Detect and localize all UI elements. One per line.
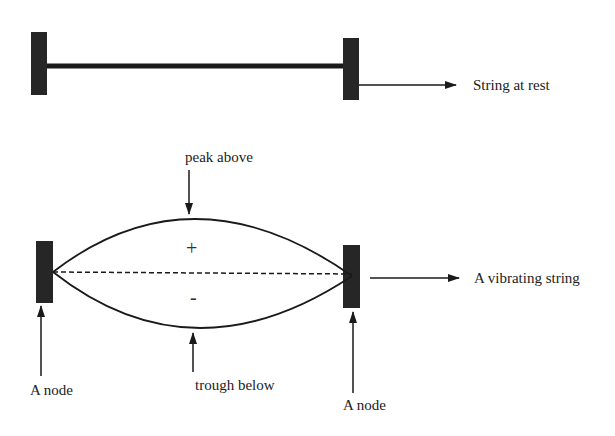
minus-sign: - <box>190 286 197 308</box>
rest-string-group: String at rest <box>31 32 550 100</box>
peak-curve <box>53 219 352 276</box>
plus-sign: + <box>186 237 197 259</box>
rest-position-dashed-line <box>53 272 352 274</box>
vibrating-string-group: + - peak above trough below A node A nod… <box>30 149 580 413</box>
string-diagram: String at rest + - peak above trough bel… <box>0 0 615 436</box>
vibrating-left-post <box>36 241 53 303</box>
rest-left-post <box>31 32 47 95</box>
rest-label: String at rest <box>473 77 550 93</box>
right-node-label: A node <box>343 397 386 413</box>
peak-label: peak above <box>185 149 253 165</box>
left-node-label: A node <box>30 382 73 398</box>
rest-right-post <box>343 38 359 100</box>
trough-label: trough below <box>195 377 275 393</box>
trough-curve <box>53 272 352 328</box>
vibrating-label: A vibrating string <box>474 270 580 286</box>
